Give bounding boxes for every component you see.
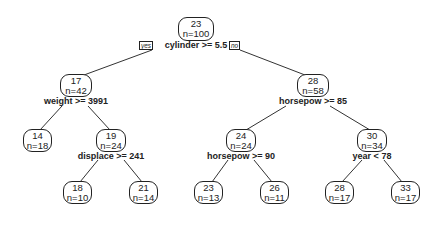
tree-node-root: 23 n=100 xyxy=(178,17,214,41)
node-count: n=10 xyxy=(66,193,89,203)
node-count: n=24 xyxy=(229,141,253,151)
tree-node-33: 33 n=17 xyxy=(391,181,420,204)
tree-node-28-leaf: 28 n=17 xyxy=(325,181,354,204)
split-label-weight: weight >= 3991 xyxy=(44,96,108,106)
node-count: n=100 xyxy=(181,29,211,39)
tree-node-28: 28 n=58 xyxy=(297,74,329,97)
no-tag: no xyxy=(229,41,240,50)
tree-node-19: 19 n=24 xyxy=(96,129,126,152)
yes-tag: yes xyxy=(139,41,153,50)
node-count: n=58 xyxy=(300,86,326,96)
tree-node-14: 14 n=18 xyxy=(23,129,52,152)
node-count: n=11 xyxy=(263,193,286,203)
split-label-year: year < 78 xyxy=(353,151,392,161)
node-count: n=17 xyxy=(394,193,417,203)
node-count: n=24 xyxy=(99,141,123,151)
tree-node-24: 24 n=24 xyxy=(226,129,256,152)
split-label-horsepow-90: horsepow >= 90 xyxy=(207,151,275,161)
split-label-root: cylinder >= 5.5 xyxy=(165,40,228,50)
node-count: n=34 xyxy=(360,141,384,151)
node-count: n=17 xyxy=(328,193,351,203)
tree-node-18: 18 n=10 xyxy=(63,181,92,204)
tree-node-23: 23 n=13 xyxy=(194,181,223,204)
tree-node-17: 17 n=42 xyxy=(60,74,92,97)
decision-tree-diagram: 23 n=100 yes cylinder >= 5.5 no 17 n=42 … xyxy=(0,0,443,227)
node-count: n=18 xyxy=(26,141,49,151)
split-label-horsepow-85: horsepow >= 85 xyxy=(279,96,347,106)
split-label-displace: displace >= 241 xyxy=(78,151,145,161)
node-count: n=14 xyxy=(132,193,155,203)
tree-node-26: 26 n=11 xyxy=(260,181,289,204)
node-count: n=42 xyxy=(63,86,89,96)
tree-node-30: 30 n=34 xyxy=(357,129,387,152)
node-count: n=13 xyxy=(197,193,220,203)
tree-node-21: 21 n=14 xyxy=(129,181,158,204)
